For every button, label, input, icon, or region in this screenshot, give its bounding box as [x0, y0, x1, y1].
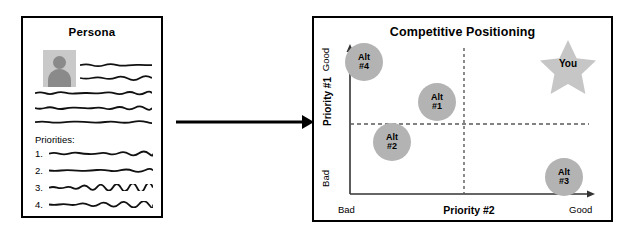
persona-text-line [80, 62, 152, 68]
data-point-label-line2: #1 [432, 102, 442, 111]
persona-text-line [35, 119, 152, 125]
priority-item: 2. [35, 166, 155, 176]
diagram-canvas: Persona [0, 0, 628, 236]
data-point-alt-3[interactable]: Alt #3 [545, 158, 583, 196]
data-point-label-line2: #2 [387, 142, 397, 151]
data-point-label-you: You [539, 58, 597, 69]
plot-area: Priority #1 Good Bad Priority #2 Bad Goo… [314, 18, 611, 220]
x-axis-label: Priority #2 [409, 204, 529, 216]
persona-text-line [80, 75, 152, 81]
priority-item: 4. [35, 200, 155, 210]
priority-number: 2. [35, 165, 43, 176]
priority-text-line [49, 201, 153, 208]
priority-text-line [49, 167, 153, 174]
priorities-label: Priorities: [35, 134, 75, 145]
person-placeholder-icon [43, 50, 76, 87]
priority-item: 3. [35, 183, 155, 193]
persona-title: Persona [23, 26, 161, 38]
x-axis-tick-good: Good [569, 204, 592, 215]
persona-text-line [35, 90, 152, 96]
avatar-body [48, 69, 71, 87]
competitive-positioning-chart: Competitive Positioning Priority #1 Good… [312, 16, 613, 222]
data-point-you-star-icon[interactable]: You [539, 38, 597, 94]
data-point-alt-2[interactable]: Alt #2 [373, 123, 411, 161]
avatar-head [53, 56, 66, 69]
y-axis-tick-good: Good [320, 37, 331, 83]
priority-item: 1. [35, 149, 155, 159]
priority-number: 1. [35, 148, 43, 159]
right-arrow-icon [176, 113, 314, 131]
data-point-alt-1[interactable]: Alt #1 [418, 83, 456, 121]
data-point-alt-4[interactable]: Alt #4 [345, 43, 383, 81]
priority-text-line [49, 150, 153, 157]
x-axis-tick-bad: Bad [338, 204, 355, 215]
data-point-label-line2: #3 [559, 177, 569, 186]
priority-number: 4. [35, 199, 43, 210]
persona-text-line [35, 105, 152, 111]
priority-text-line [49, 184, 153, 191]
data-point-label-line2: #4 [359, 62, 369, 71]
y-axis-tick-bad: Bad [320, 156, 331, 202]
persona-card: Persona [21, 16, 163, 218]
priority-number: 3. [35, 182, 43, 193]
